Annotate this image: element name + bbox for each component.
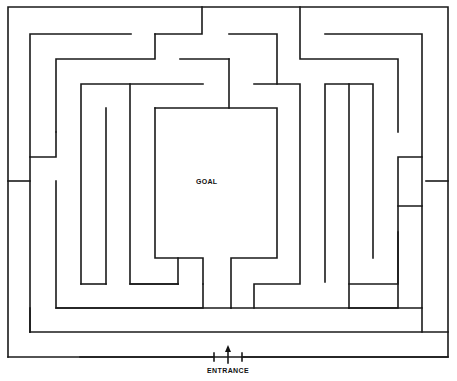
entrance-label: ENTRANCE — [207, 367, 249, 374]
goal-label: GOAL — [196, 178, 217, 185]
maze-walls — [8, 7, 448, 363]
maze — [0, 0, 457, 381]
arrow-head-icon — [225, 345, 231, 352]
